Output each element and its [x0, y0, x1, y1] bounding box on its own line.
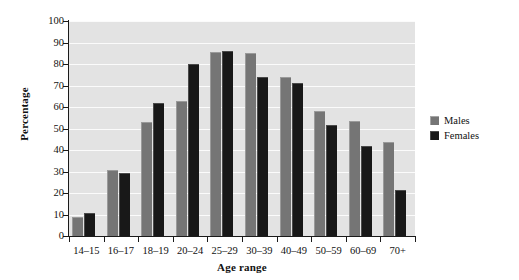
bar-males: [349, 121, 360, 236]
x-tick-mark: [104, 237, 105, 242]
bar-males: [210, 52, 221, 236]
x-tick-mark: [173, 237, 174, 242]
bar-females: [222, 51, 233, 236]
y-tick-mark: [63, 193, 68, 194]
y-tick-mark: [63, 21, 68, 22]
bar-males: [141, 122, 152, 236]
y-tick-mark: [63, 107, 68, 108]
y-tick-mark: [63, 129, 68, 130]
bar-group: [242, 21, 277, 236]
bar-group: [104, 21, 139, 236]
x-tick-mark: [311, 237, 312, 242]
y-tick-label: 100: [48, 16, 64, 26]
bar-males: [245, 53, 256, 236]
y-tick-mark: [63, 86, 68, 87]
legend-item: Males: [430, 113, 479, 127]
bar-females: [119, 173, 130, 236]
bar-females: [257, 77, 268, 236]
bar-females: [84, 213, 95, 236]
chart-legend: MalesFemales: [430, 113, 479, 143]
x-tick-mark: [277, 237, 278, 242]
y-tick-mark: [63, 215, 68, 216]
bar-females: [326, 125, 337, 236]
bar-group: [311, 21, 346, 236]
y-axis-title: Percentage: [18, 54, 30, 174]
x-axis-title: Age range: [69, 261, 415, 273]
bar-chart-figure: Percentage 0102030405060708090100 14–151…: [0, 0, 519, 280]
legend-item: Females: [430, 128, 479, 142]
bar-females: [153, 103, 164, 236]
y-tick-mark: [63, 236, 68, 237]
bar-males: [107, 170, 118, 236]
bar-males: [176, 101, 187, 236]
bar-group: [346, 21, 381, 236]
bar-males: [280, 77, 291, 236]
bar-groups: [69, 21, 415, 236]
legend-swatch-icon: [430, 131, 439, 140]
legend-swatch-icon: [430, 116, 439, 125]
bar-females: [395, 190, 406, 236]
x-tick-mark: [346, 237, 347, 242]
bar-group: [207, 21, 242, 236]
y-tick-mark: [63, 150, 68, 151]
legend-label: Females: [444, 130, 479, 141]
x-tick-mark: [242, 237, 243, 242]
bar-group: [138, 21, 173, 236]
legend-label: Males: [444, 115, 470, 126]
y-tick-mark: [63, 172, 68, 173]
bar-males: [383, 142, 394, 236]
bar-males: [72, 217, 83, 236]
x-tick-mark: [207, 237, 208, 242]
bar-group: [380, 21, 415, 236]
x-tick-label: 70+: [368, 245, 428, 256]
y-tick-mark: [63, 64, 68, 65]
x-tick-mark: [415, 237, 416, 242]
x-tick-mark: [138, 237, 139, 242]
bar-males: [314, 111, 325, 236]
bar-females: [188, 64, 199, 236]
bar-females: [361, 146, 372, 236]
bar-group: [173, 21, 208, 236]
bar-group: [69, 21, 104, 236]
x-tick-mark: [380, 237, 381, 242]
x-tick-mark: [69, 237, 70, 242]
bar-group: [277, 21, 312, 236]
y-tick-mark: [63, 43, 68, 44]
bar-females: [292, 83, 303, 236]
